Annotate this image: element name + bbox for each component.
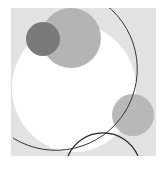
abstract-circles-artwork xyxy=(11,8,156,156)
artwork-frame xyxy=(11,8,156,156)
right-grey-circle xyxy=(112,94,154,136)
dark-grey-circle xyxy=(26,22,60,56)
